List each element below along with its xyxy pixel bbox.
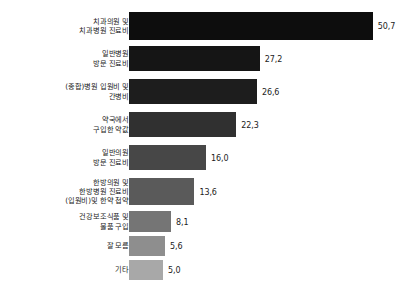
category-label: 약국에서 구입한 약값 <box>7 115 129 133</box>
bar-track <box>129 46 260 71</box>
bar-value-label: 16,0 <box>211 153 228 162</box>
category-label: 일반의원 방문 진료비 <box>7 148 129 166</box>
bar-track <box>129 236 165 256</box>
bar-value-label: 8,1 <box>176 217 188 226</box>
bar-value-label: 5,0 <box>168 266 180 275</box>
bar-value-label: 13,6 <box>199 187 216 196</box>
category-label: 일반병원 방문 진료비 <box>7 49 129 67</box>
bar <box>129 145 206 170</box>
bar-row: 잘 모름5,6 <box>0 236 412 256</box>
category-label: 한방의원 및 한방병원 진료비 (입원비)및 한약 첩약 <box>7 178 129 206</box>
bar-row: (종합)병원 입원비 및 간병비26,6 <box>0 79 412 104</box>
category-label: 잘 모름 <box>7 241 129 250</box>
bar <box>129 112 236 137</box>
bar-track <box>129 260 163 280</box>
category-label: 건강보조식품 및 물품 구입 <box>7 212 129 230</box>
bar-value-label: 5,6 <box>170 242 182 251</box>
category-label: (종합)병원 입원비 및 간병비 <box>7 82 129 100</box>
bar-row: 건강보조식품 및 물품 구입8,1 <box>0 211 412 232</box>
plot-area: 치과의원 및 치과병원 진료비50,7일반병원 방문 진료비27,2(종합)병원… <box>0 8 412 270</box>
bar-track <box>129 79 257 104</box>
bar-row: 한방의원 및 한방병원 진료비 (입원비)및 한약 첩약13,6 <box>0 178 412 205</box>
category-label: 치과의원 및 치과병원 진료비 <box>7 17 129 35</box>
bar <box>129 211 171 232</box>
bar-row: 치과의원 및 치과병원 진료비50,7 <box>0 12 412 40</box>
bar-value-label: 27,2 <box>265 54 282 63</box>
bar <box>129 178 194 205</box>
bar <box>129 79 257 104</box>
bar-chart: 치과의원 및 치과병원 진료비50,7일반병원 방문 진료비27,2(종합)병원… <box>0 0 412 286</box>
bar-value-label: 26,6 <box>262 87 279 96</box>
bar-row: 일반의원 방문 진료비16,0 <box>0 145 412 170</box>
bar-value-label: 22,3 <box>241 120 258 129</box>
bar-row: 기타5,0 <box>0 260 412 280</box>
bar-track <box>129 12 373 40</box>
bar <box>129 12 373 40</box>
bar <box>129 46 260 71</box>
bar-track <box>129 145 206 170</box>
bar-track <box>129 112 236 137</box>
bar-row: 약국에서 구입한 약값22,3 <box>0 112 412 137</box>
bar-track <box>129 178 194 205</box>
category-label: 기타 <box>7 265 129 274</box>
bar <box>129 236 165 256</box>
bar-row: 일반병원 방문 진료비27,2 <box>0 46 412 71</box>
bar-track <box>129 211 171 232</box>
bar-value-label: 50,7 <box>378 22 395 31</box>
bar <box>129 260 163 280</box>
